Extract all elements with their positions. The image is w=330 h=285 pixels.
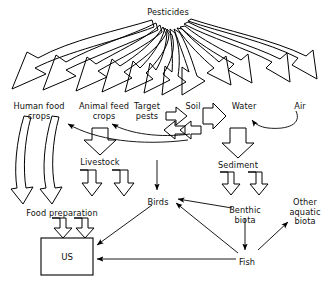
block-arrow-soil-to-water xyxy=(203,103,226,129)
node-label-birds: Birds xyxy=(147,198,168,208)
node-label-water: Water xyxy=(232,102,257,112)
node-label-soil: Soil xyxy=(185,102,200,112)
pesticide-flow-diagram: Pesticides Human food crops Animal feed … xyxy=(0,0,330,285)
block-arrow-pesticides-air-2 xyxy=(188,19,317,79)
node-label-fish: Fish xyxy=(239,258,255,268)
block-arrow-target-pests-to-soil xyxy=(166,107,187,125)
block-arrow-soil-to-target-pests xyxy=(164,121,185,139)
block-arrow-water-to-soil xyxy=(180,121,201,139)
block-arrow-pesticides-target-pests-1 xyxy=(125,28,169,92)
node-label-food-preparation: Food preparation xyxy=(26,209,98,219)
diagram-canvas xyxy=(0,0,330,285)
node-label-animal-feed-crops: Animal feed crops xyxy=(79,102,129,121)
thin-arrow-birds-to-us xyxy=(97,205,152,245)
block-arrow-sediment-to-benthic-2 xyxy=(248,172,268,195)
block-arrow-fan-pesticides xyxy=(12,19,317,95)
thin-arrow-fish-to-other-aquatic xyxy=(258,222,288,250)
block-arrow-human-food-to-food-prep-2 xyxy=(40,116,62,204)
block-arrow-food-prep-to-us-2 xyxy=(74,218,94,238)
node-label-us: US xyxy=(61,252,73,262)
block-arrow-human-food-to-food-prep-1 xyxy=(11,116,33,204)
block-arrow-water-to-sediment xyxy=(222,128,254,158)
thin-arrow-benthic-to-birds xyxy=(178,199,232,208)
node-label-other-aquatic-biota: Other aquatic biota xyxy=(289,198,320,227)
thin-arrow-air-to-water xyxy=(252,111,297,128)
block-arrow-pesticides-animal-feed-2 xyxy=(102,27,166,92)
block-arrow-livestock-to-food-prep-1 xyxy=(80,170,102,196)
node-label-sediment: Sediment xyxy=(218,161,258,171)
block-arrow-sediment-to-benthic-1 xyxy=(220,172,240,195)
thin-arrow-group xyxy=(68,111,297,259)
node-label-benthic-biota: Benthic biota xyxy=(229,206,261,225)
node-label-livestock: Livestock xyxy=(80,158,119,168)
node-label-target-pests: Target pests xyxy=(134,102,160,121)
block-arrow-pesticides-human-food-1 xyxy=(12,20,154,89)
block-arrow-pesticides-soil-2 xyxy=(174,29,205,95)
block-arrow-pesticides-water-2 xyxy=(180,26,252,83)
block-arrow-pesticides-air-1 xyxy=(184,22,290,82)
node-label-human-food-crops: Human food crops xyxy=(13,102,64,121)
block-arrow-animal-feed-to-livestock xyxy=(84,128,116,155)
node-label-air: Air xyxy=(294,102,306,112)
block-arrow-livestock-to-food-prep-2 xyxy=(112,170,134,196)
block-arrow-food-prep-to-us-1 xyxy=(52,218,72,238)
node-label-pesticides: Pesticides xyxy=(147,8,189,18)
